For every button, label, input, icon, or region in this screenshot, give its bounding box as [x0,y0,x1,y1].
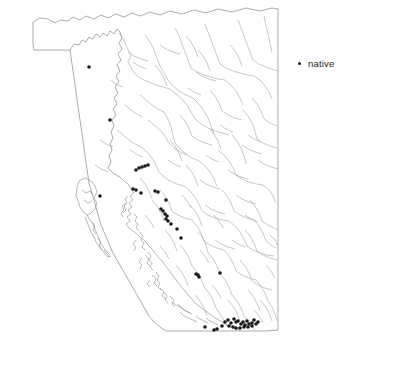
dot-icon [298,62,301,65]
occurrence-point [256,320,260,324]
occurrence-point [203,325,207,329]
haida-gwaii-islands [76,178,111,257]
river-network [95,16,278,330]
occurrence-point [245,319,249,323]
occurrence-point [134,188,138,192]
bc-border-path [33,8,278,331]
occurrence-point [139,191,143,195]
occurrence-point [227,324,231,328]
occurrence-point [98,194,102,198]
occurrence-point [87,65,91,69]
occurrence-point [218,271,222,275]
map-canvas [0,0,416,370]
occurrence-point [241,320,245,324]
occurrence-point [226,318,230,322]
occurrence-point [250,324,254,328]
distribution-map-figure: native [0,0,416,370]
legend: native [298,59,335,69]
occurrence-point [108,118,112,122]
occurrence-point [146,163,150,167]
occurrence-point [161,209,165,213]
native-occurrence-points [87,65,260,332]
occurrence-point [236,319,240,323]
occurrence-point [238,326,242,330]
occurrence-point [220,324,224,328]
occurrence-point [169,222,173,226]
occurrence-point [156,190,160,194]
occurrence-point [252,318,256,322]
occurrence-point [166,219,170,223]
occurrence-point [179,236,183,240]
occurrence-point [215,327,219,331]
occurrence-point [175,227,179,231]
occurrence-point [246,325,250,329]
occurrence-point [164,198,168,202]
occurrence-point [134,168,138,172]
coastline-detail [120,177,240,330]
occurrence-point [229,321,233,325]
province-outline [33,8,278,331]
occurrence-point [242,325,246,329]
occurrence-point [223,320,227,324]
legend-label-native: native [308,59,335,69]
occurrence-point [232,317,236,321]
occurrence-point [197,275,201,279]
occurrence-point [234,326,238,330]
